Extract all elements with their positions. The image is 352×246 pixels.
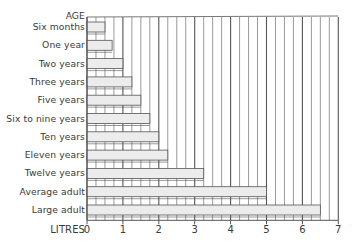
top-border	[87, 16, 338, 17]
bar	[87, 168, 204, 178]
bar-chart	[0, 0, 352, 246]
bar	[87, 59, 123, 69]
bar	[87, 77, 132, 87]
bar	[87, 205, 320, 215]
bar	[87, 95, 141, 105]
bar	[87, 132, 159, 142]
bar	[87, 40, 112, 50]
bar	[87, 22, 105, 32]
bar	[87, 150, 168, 160]
bar	[87, 187, 267, 197]
bar	[87, 114, 150, 124]
